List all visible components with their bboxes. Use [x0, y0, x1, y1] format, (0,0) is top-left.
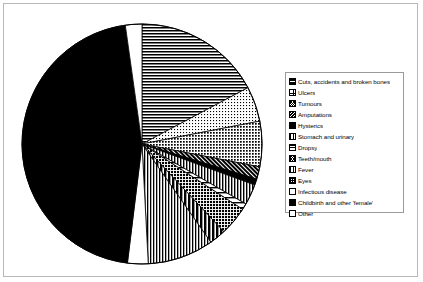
legend-item-label: Teeth/mouth: [298, 153, 332, 164]
legend-item-label: Cuts, accidents and broken bones: [298, 76, 390, 87]
legend-item[interactable]: Stomach and urinary: [289, 131, 401, 142]
legend-item[interactable]: Infectious disease: [289, 186, 401, 197]
chart-legend: Cuts, accidents and broken bonesUlcersTu…: [285, 72, 404, 213]
legend-swatch-icon: [289, 133, 296, 140]
legend-item-label: Infectious disease: [298, 186, 347, 197]
legend-swatch-icon: [289, 210, 296, 217]
legend-swatch-icon: [289, 144, 296, 151]
legend-item[interactable]: Fever: [289, 164, 401, 175]
figure-frame: Cuts, accidents and broken bonesUlcersTu…: [3, 3, 418, 277]
legend-item-label: Amputations: [298, 109, 332, 120]
pie-slice-group: [22, 24, 262, 264]
pie-slice[interactable]: [22, 25, 142, 263]
legend-item-label: Stomach and urinary: [298, 131, 354, 142]
legend-swatch-icon: [289, 188, 296, 195]
legend-item-label: Fever: [298, 164, 314, 175]
pie-chart: [12, 12, 276, 276]
legend-item[interactable]: Teeth/mouth: [289, 153, 401, 164]
legend-swatch-icon: [289, 155, 296, 162]
pie-chart-area: [12, 12, 276, 276]
legend-item-label: Dropsy: [298, 142, 317, 153]
legend-item[interactable]: Ulcers: [289, 87, 401, 98]
legend-item-label: Tumours: [298, 98, 322, 109]
legend-item-label: Eyes: [298, 175, 312, 186]
legend-item-label: Other: [298, 208, 313, 219]
legend-swatch-icon: [289, 166, 296, 173]
legend-swatch-icon: [289, 100, 296, 107]
legend-swatch-icon: [289, 111, 296, 118]
legend-item[interactable]: Other: [289, 208, 401, 219]
legend-swatch-icon: [289, 177, 296, 184]
legend-item[interactable]: Hysterics: [289, 120, 401, 131]
legend-item[interactable]: Eyes: [289, 175, 401, 186]
legend-item[interactable]: Cuts, accidents and broken bones: [289, 76, 401, 87]
legend-item[interactable]: Amputations: [289, 109, 401, 120]
legend-item[interactable]: Dropsy: [289, 142, 401, 153]
legend-item[interactable]: Childbirth and other 'female': [289, 197, 401, 208]
legend-item[interactable]: Tumours: [289, 98, 401, 109]
legend-swatch-icon: [289, 89, 296, 96]
legend-item-label: Ulcers: [298, 87, 315, 98]
legend-item-label: Childbirth and other 'female': [298, 197, 373, 208]
legend-item-label: Hysterics: [298, 120, 323, 131]
chart-page: Cuts, accidents and broken bonesUlcersTu…: [0, 0, 423, 282]
legend-swatch-icon: [289, 122, 296, 129]
legend-swatch-icon: [289, 199, 296, 206]
legend-swatch-icon: [289, 78, 296, 85]
